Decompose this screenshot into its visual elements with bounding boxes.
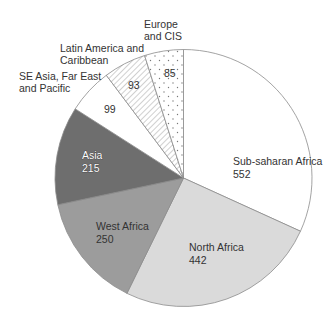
label-latin-name-1: Latin America and [60,42,144,54]
label-west-africa-value: 250 [96,233,114,245]
label-north-africa-name: North Africa [189,241,244,253]
label-asia-name: Asia [82,149,103,161]
label-se-asia-value: 99 [104,103,116,115]
label-europe-name-1: Europe [144,18,178,30]
label-latin-name-2: Caribbean [60,54,109,66]
label-europe-name-2: and CIS [144,30,182,42]
pie-slices [55,49,312,306]
pie-chart: Sub-saharan Africa 552 North Africa 442 … [0,0,329,326]
label-sub-saharan-name: Sub-saharan Africa [233,155,322,167]
label-asia-value: 215 [82,162,100,174]
label-north-africa-value: 442 [189,254,207,266]
label-latin-value: 93 [128,79,140,91]
label-europe-value: 85 [164,67,176,79]
label-se-asia-name-1: SE Asia, Far East [19,70,101,82]
label-sub-saharan-value: 552 [233,168,251,180]
label-west-africa-name: West Africa [96,220,149,232]
label-se-asia-name-2: and Pacific [19,82,70,94]
